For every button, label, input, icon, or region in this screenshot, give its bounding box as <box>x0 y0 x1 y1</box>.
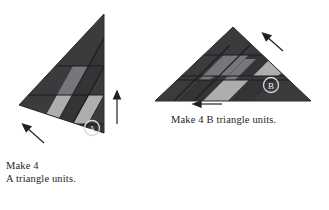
unit-a-caption: Make 4 A triangle units. <box>6 160 76 185</box>
unit-a-caption-line-2: A triangle units. <box>6 173 76 186</box>
unit-a-arrow-up-left <box>23 124 45 143</box>
diagram-canvas: A <box>0 0 329 210</box>
unit-b-arrow-up-left <box>263 33 284 51</box>
triangle-unit-b: B <box>150 20 320 110</box>
unit-a-caption-line-1: Make 4 <box>6 160 76 173</box>
unit-a-arrow-up <box>114 91 121 124</box>
unit-b-badge-label: B <box>268 81 274 91</box>
unit-a-badge-label: A <box>89 124 96 134</box>
unit-b-caption: Make 4 B triangle units. <box>171 114 276 127</box>
unit-b-caption-line-1: Make 4 B triangle units. <box>171 114 276 127</box>
triangle-unit-a: A <box>10 5 137 145</box>
unit-b-arrow-left <box>193 101 222 107</box>
unit-a-fabric <box>10 5 137 145</box>
unit-b-fabric <box>150 20 320 110</box>
